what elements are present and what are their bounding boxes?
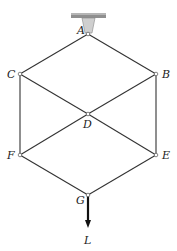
joint-E — [154, 153, 158, 157]
label-G: G — [76, 194, 85, 207]
label-C: C — [7, 68, 16, 81]
member-EG — [88, 155, 156, 195]
member-BD — [88, 74, 156, 114]
joint-C — [18, 72, 22, 76]
joint-D — [86, 112, 90, 116]
truss-joints — [18, 32, 158, 197]
member-FG — [20, 155, 88, 195]
joint-A — [86, 32, 90, 36]
truss-diagram: ABCDEFGL — [0, 0, 177, 251]
joint-B — [154, 72, 158, 76]
label-E: E — [161, 149, 170, 162]
label-F: F — [6, 149, 15, 162]
label-D: D — [82, 118, 92, 131]
joint-F — [18, 153, 22, 157]
label-A: A — [76, 24, 85, 37]
member-DF — [20, 114, 88, 155]
arrow-head-icon — [85, 220, 91, 228]
member-AC — [20, 34, 88, 74]
ceiling-plate-highlight — [71, 13, 106, 15]
load-arrow — [85, 195, 91, 228]
label-B: B — [161, 68, 170, 81]
member-CD — [20, 74, 88, 114]
load-label: L — [83, 234, 91, 247]
member-AB — [88, 34, 156, 74]
member-DE — [88, 114, 156, 155]
joint-G — [86, 193, 90, 197]
